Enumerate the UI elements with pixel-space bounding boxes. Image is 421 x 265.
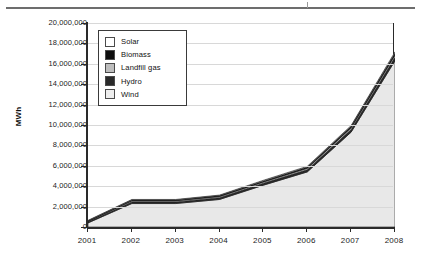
header-tick-mark	[307, 2, 308, 8]
x-axis-tick	[350, 227, 351, 232]
legend-item-label: Hydro	[121, 77, 142, 86]
y-axis-tick-label: 16,000,000	[17, 59, 87, 68]
y-axis-tick-label: 14,000,000	[17, 79, 87, 88]
legend-item: Solar	[105, 35, 181, 48]
x-axis-tick-label: 2006	[283, 236, 329, 245]
legend-item-label: Solar	[121, 37, 139, 46]
x-axis-tick-label: 2003	[152, 236, 198, 245]
gridline	[88, 186, 393, 187]
y-axis-tick	[81, 23, 87, 24]
x-axis-tick	[87, 227, 88, 232]
legend-item: Wind	[105, 88, 181, 101]
legend-swatch-icon	[105, 63, 115, 73]
x-axis-tick	[394, 227, 395, 232]
y-axis-tick-label: 8,000,000	[17, 140, 87, 149]
y-axis-tick-label: 6,000,000	[17, 161, 87, 170]
y-axis-tick	[81, 166, 87, 167]
y-axis-tick-label: 10,000,000	[17, 120, 87, 129]
legend-swatch-icon	[105, 76, 115, 86]
y-axis-tick	[81, 207, 87, 208]
y-axis-tick	[81, 125, 87, 126]
x-axis-tick-label: 2001	[64, 236, 110, 245]
x-axis-tick	[219, 227, 220, 232]
y-axis-tick	[81, 64, 87, 65]
x-axis-tick-label: 2004	[196, 236, 242, 245]
legend-swatch-icon	[105, 37, 115, 47]
x-axis-line	[87, 227, 394, 229]
y-axis-tick-label: 18,000,000	[17, 38, 87, 47]
x-axis-tick	[306, 227, 307, 232]
chart-figure: 20,000,00018,000,00016,000,00014,000,000…	[0, 0, 421, 265]
gridline	[88, 166, 393, 167]
legend-swatch-icon	[105, 50, 115, 60]
x-axis-tick	[262, 227, 263, 232]
y-axis-tick	[81, 43, 87, 44]
y-axis-tick	[81, 105, 87, 106]
y-axis-tick-label: 20,000,000	[17, 18, 87, 27]
legend-swatch-icon	[105, 89, 115, 99]
x-axis-tick	[175, 227, 176, 232]
gridline	[88, 207, 393, 208]
y-axis-tick-label: 12,000,000	[17, 100, 87, 109]
y-axis-title: MWh	[14, 95, 23, 139]
x-axis-tick-label: 2007	[327, 236, 373, 245]
gridline	[88, 23, 393, 24]
y-axis-tick	[81, 186, 87, 187]
y-axis-tick	[81, 84, 87, 85]
y-axis-tick-label: 2,000,000	[17, 202, 87, 211]
legend-item-label: Biomass	[121, 50, 151, 59]
gridline	[88, 125, 393, 126]
chart-legend: SolarBiomassLandfill gasHydroWind	[98, 30, 187, 106]
x-axis-tick	[131, 227, 132, 232]
y-axis-tick	[81, 145, 87, 146]
x-axis-tick-label: 2005	[239, 236, 285, 245]
y-axis-tick-label: 0	[17, 222, 87, 231]
legend-item-label: Wind	[121, 90, 139, 99]
legend-item: Landfill gas	[105, 61, 181, 74]
y-axis-tick-label: 4,000,000	[17, 181, 87, 190]
legend-item: Biomass	[105, 48, 181, 61]
x-axis-tick-label: 2008	[371, 236, 417, 245]
gridline	[88, 145, 393, 146]
legend-item-label: Landfill gas	[121, 63, 161, 72]
legend-item: Hydro	[105, 75, 181, 88]
x-axis-tick-label: 2002	[108, 236, 154, 245]
